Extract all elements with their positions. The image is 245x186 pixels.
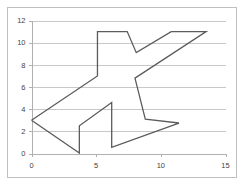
- x-tick-label-5: 5: [94, 161, 98, 170]
- x-tick-label-15: 15: [221, 161, 229, 170]
- x-axis-tick-labels: 051015: [29, 161, 229, 170]
- x-tick-label-10: 10: [157, 161, 165, 170]
- y-tick-label-10: 10: [17, 38, 25, 47]
- axes-group: [29, 21, 227, 157]
- y-tick-label-0: 0: [21, 149, 25, 158]
- series-group: [32, 32, 207, 153]
- y-tick-label-12: 12: [17, 16, 25, 25]
- y-tick-label-2: 2: [21, 127, 25, 136]
- y-tick-label-8: 8: [21, 61, 25, 70]
- y-axis-tick-labels: 024681012: [17, 16, 25, 158]
- y-tick-label-6: 6: [21, 83, 25, 92]
- x-tick-label-0: 0: [29, 161, 33, 170]
- line-chart: 024681012 051015: [0, 0, 245, 186]
- series-line-shape: [32, 32, 207, 153]
- y-tick-label-4: 4: [21, 105, 25, 114]
